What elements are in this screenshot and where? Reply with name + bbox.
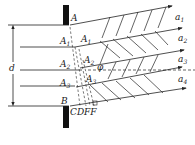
label-a3: a3: [178, 54, 187, 65]
label-A3-prime: A3: [85, 74, 97, 85]
label-a4: a4: [178, 74, 187, 85]
label-A: A: [70, 13, 78, 23]
slit-wall-bottom: [63, 106, 69, 128]
label-phi: φ: [97, 62, 104, 72]
label-A3: A3: [59, 78, 71, 89]
label-A1-prime: A1: [80, 34, 91, 45]
label-A2-prime: A2: [83, 55, 95, 66]
diffraction-diagram: d: [0, 0, 195, 145]
label-B: B: [60, 96, 68, 106]
incident-wavefront-lines: [8, 25, 82, 106]
label-CDFF: CDFF: [70, 107, 97, 117]
label-d: d: [9, 63, 15, 73]
label-a1: a1: [175, 12, 184, 23]
label-A2: A2: [59, 59, 71, 70]
label-A1: A1: [59, 36, 70, 47]
slit-wall-top: [63, 5, 69, 25]
label-a2: a2: [178, 33, 187, 44]
